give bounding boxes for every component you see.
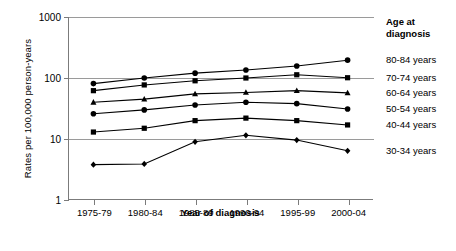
data-point-circle	[91, 81, 97, 87]
data-point-square	[345, 75, 350, 80]
data-point-square	[142, 126, 147, 131]
x-axis-tick	[94, 200, 95, 205]
legend-item-50-54: 50-54 years	[386, 103, 436, 114]
legend-title-line-2: diagnosis	[386, 28, 456, 40]
data-point-circle	[294, 63, 300, 69]
x-axis-tick	[247, 200, 248, 205]
data-point-circle	[91, 111, 97, 117]
legend: Age at diagnosis	[386, 16, 456, 49]
data-point-circle	[192, 102, 198, 108]
data-point-circle	[345, 57, 351, 63]
y-axis-tick-label: 100	[44, 73, 61, 84]
x-axis-title: Year of diagnosis	[68, 207, 373, 218]
legend-title-line-1: Age at	[386, 16, 456, 28]
data-point-diamond	[141, 161, 147, 167]
x-axis-tick	[196, 200, 197, 205]
data-point-diamond	[91, 162, 97, 168]
x-axis-tick	[145, 200, 146, 205]
series-line	[93, 60, 347, 83]
data-point-square	[192, 118, 197, 123]
y-axis-title: Rates per 100,000 person-years	[22, 19, 33, 199]
series-line	[93, 102, 347, 113]
data-point-circle	[243, 99, 249, 105]
data-point-square	[243, 116, 248, 121]
data-point-square	[345, 122, 350, 127]
data-point-square	[294, 72, 299, 77]
series-line	[93, 91, 347, 103]
y-axis-tick-label: 1000	[39, 12, 61, 23]
data-point-diamond	[294, 137, 300, 143]
data-point-square	[91, 88, 96, 93]
legend-title: Age at diagnosis	[386, 16, 456, 40]
y-axis-tick-label: 10	[50, 134, 61, 145]
x-axis-tick	[349, 200, 350, 205]
data-point-square	[243, 75, 248, 80]
data-point-circle	[192, 70, 198, 76]
legend-item-60-64: 60-64 years	[386, 87, 436, 98]
data-point-square	[294, 118, 299, 123]
legend-item-30-34: 30-34 years	[386, 145, 436, 156]
data-point-square	[142, 82, 147, 87]
data-point-diamond	[192, 139, 198, 145]
y-axis-tick	[64, 200, 69, 201]
series-line	[93, 118, 347, 132]
x-axis-tick	[298, 200, 299, 205]
chart-figure: Rates per 100,000 person-years 110100100…	[0, 0, 456, 251]
data-point-circle	[345, 106, 351, 112]
data-point-circle	[141, 75, 147, 81]
data-point-square	[91, 129, 96, 134]
data-point-circle	[294, 101, 300, 107]
series-line	[93, 135, 347, 164]
data-series-layer	[68, 17, 373, 200]
series-line	[93, 75, 347, 91]
legend-item-40-44: 40-44 years	[386, 119, 436, 130]
data-point-diamond	[243, 132, 249, 138]
legend-item-70-74: 70-74 years	[386, 72, 436, 83]
y-axis-tick-label: 1	[55, 195, 61, 206]
legend-item-80-84: 80-84 years	[386, 54, 436, 65]
data-point-square	[192, 78, 197, 83]
data-point-circle	[243, 67, 249, 73]
data-point-circle	[141, 107, 147, 113]
data-point-diamond	[345, 148, 351, 154]
